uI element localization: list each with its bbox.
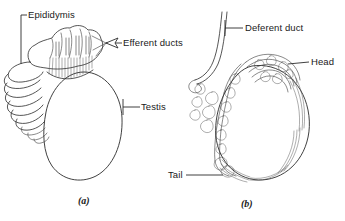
figure-drawing-canvas <box>0 0 345 221</box>
panel-a-drawing <box>4 15 140 180</box>
label-testis: Testis <box>141 102 166 112</box>
label-epididymis: Epididymis <box>28 10 75 20</box>
deferent-duct-tube-inner <box>197 12 227 84</box>
epididymis-coil-a <box>4 62 49 143</box>
efferent-duct-inner-tubes <box>56 36 89 56</box>
label-efferent-ducts: Efferent ducts <box>123 38 183 48</box>
testis-outline-a <box>44 72 122 180</box>
epididymis-lobule-1 <box>50 39 53 58</box>
deferent-duct-tube-outer <box>195 12 222 80</box>
epididymis-lobule-2 <box>59 33 62 58</box>
anatomy-figure: Epididymis Efferent ducts Testis Deferen… <box>0 0 345 221</box>
caption-panel-a: (a) <box>78 196 90 206</box>
epididymis-lobule-4 <box>80 29 82 58</box>
epididymis-lobule-5 <box>89 32 91 57</box>
epididymis-body-outline-a <box>28 26 103 70</box>
epididymis-lobule-3 <box>69 30 72 58</box>
label-tail: Tail <box>168 170 183 180</box>
panel-b-drawing <box>186 12 309 182</box>
efferent-ducts-pointer-spread <box>92 36 106 56</box>
caption-panel-b: (b) <box>241 199 253 209</box>
label-head: Head <box>311 57 334 67</box>
label-deferent-duct: Deferent duct <box>245 23 303 33</box>
testis-outline-b <box>216 65 310 180</box>
